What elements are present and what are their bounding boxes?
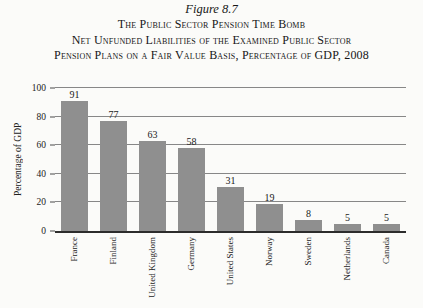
bar-slot-netherlands: 5 [328,88,367,231]
bar-united-states [217,187,245,231]
bar-value-label: 91 [70,89,80,100]
bar-slot-germany: 58 [172,88,211,231]
x-category-label: Norway [264,237,275,266]
y-axis: 020406080100 [0,88,55,231]
figure-title-line-2: Net Unfunded Liabilities of the Examined… [0,33,423,49]
bar-slot-norway: 19 [250,88,289,231]
bar-germany [178,148,206,231]
x-axis: FranceFinlandUnited KingdomGermanyUnited… [55,234,406,306]
y-tick-label: 80 [37,112,47,122]
x-label-slot: United States [211,234,250,306]
y-tick-label: 40 [37,169,47,179]
y-tick-label: 60 [37,140,47,150]
x-category-label: Finland [108,237,119,265]
bar-series: 917763583119855 [55,88,406,231]
figure-number: Figure 8.7 [0,2,423,17]
x-label-slot: Sweden [289,234,328,306]
bar-slot-sweden: 8 [289,88,328,231]
bar-value-label: 8 [306,208,311,219]
y-tick-label: 100 [32,83,46,93]
figure-title-line-1: The Public Sector Pension Time Bomb [0,17,423,33]
bar-value-label: 77 [109,109,119,120]
bar-value-label: 63 [148,129,158,140]
bar-norway [256,204,284,231]
figure-title-line-3: Pension Plans on a Fair Value Basis, Per… [0,48,423,64]
x-label-slot: Netherlands [328,234,367,306]
bar-value-label: 19 [265,192,275,203]
x-category-label: Germany [186,237,197,271]
bar-slot-france: 91 [55,88,94,231]
bar-slot-united-kingdom: 63 [133,88,172,231]
bar-france [61,101,89,231]
bar-netherlands [334,224,362,231]
x-category-label: Sweden [303,237,314,266]
bar-value-label: 31 [226,175,236,186]
bar-value-label: 58 [187,136,197,147]
x-category-label: United Kingdom [147,237,158,298]
x-category-label: Netherlands [342,237,353,280]
bar-slot-finland: 77 [94,88,133,231]
x-label-slot: Germany [172,234,211,306]
y-tick-label: 0 [41,226,46,236]
plot-area: 917763583119855 [55,88,406,233]
figure-titles: Figure 8.7 The Public Sector Pension Tim… [0,2,423,64]
x-category-label: United States [225,237,236,285]
x-label-slot: United Kingdom [133,234,172,306]
x-label-slot: France [55,234,94,306]
x-label-slot: Canada [367,234,406,306]
x-category-label: France [69,237,80,262]
figure-page: Figure 8.7 The Public Sector Pension Tim… [0,0,423,308]
bar-united-kingdom [139,141,167,231]
y-tick-label: 20 [37,197,47,207]
bar-slot-united-states: 31 [211,88,250,231]
bar-finland [100,121,128,231]
bar-sweden [295,220,323,231]
bar-slot-canada: 5 [367,88,406,231]
x-label-slot: Norway [250,234,289,306]
x-category-label: Canada [381,237,392,264]
x-label-slot: Finland [94,234,133,306]
bar-value-label: 5 [345,212,350,223]
bar-value-label: 5 [384,212,389,223]
bar-canada [373,224,401,231]
